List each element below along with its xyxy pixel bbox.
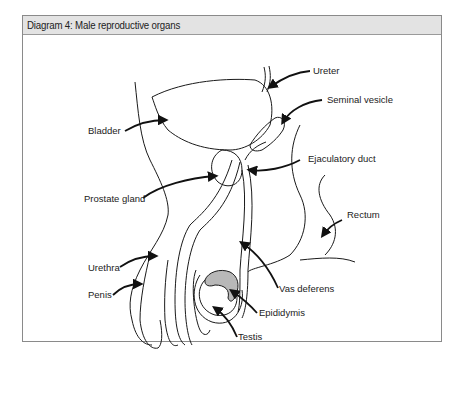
ureter-line-2	[267, 66, 270, 92]
label-prostate-gland: Prostate gland	[84, 193, 145, 204]
label-penis: Penis	[88, 289, 112, 300]
urethra-line-2	[185, 162, 240, 345]
vas-deferens-1	[238, 170, 245, 312]
rectum-arrow	[323, 220, 342, 235]
penis-outline	[140, 255, 162, 348]
label-testis: Testis	[238, 331, 263, 342]
label-rectum: Rectum	[347, 209, 380, 220]
prostate-arrow	[143, 176, 215, 198]
seminal-vesicle-outline	[250, 117, 284, 151]
label-bladder: Bladder	[88, 125, 121, 136]
bladder-arrow	[125, 120, 165, 131]
organ-outlines	[130, 66, 355, 348]
ureter-arrow	[270, 71, 310, 87]
label-vas-deferens: Vas deferens	[279, 283, 335, 294]
label-ejaculatory-duct: Ejaculatory duct	[308, 153, 376, 164]
vas-deferens-2	[242, 165, 252, 318]
label-seminal-vesicle: Seminal vesicle	[327, 94, 393, 105]
label-ureter: Ureter	[313, 65, 339, 76]
epididymis-shape	[205, 270, 238, 301]
penis-arrow	[113, 284, 140, 295]
anatomy-diagram: Ureter Seminal vesicle Bladder Ejaculato…	[0, 0, 461, 393]
prostate-outline	[212, 150, 242, 186]
ureter-line-1	[262, 67, 265, 92]
seminal-vesicle-arrow	[283, 100, 322, 122]
label-arrows	[113, 71, 342, 337]
label-epididymis: Epididymis	[259, 307, 305, 318]
label-urethra: Urethra	[88, 262, 120, 273]
